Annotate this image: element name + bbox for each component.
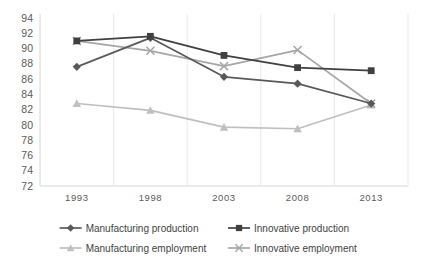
x-axis-tick-label: 2003: [212, 192, 236, 203]
line-chart: 727476788082848688909294 199319982003200…: [0, 0, 422, 262]
y-axis-tick-label: 84: [21, 88, 33, 100]
legend-label: Manufacturing employment: [86, 243, 207, 254]
series-manufacturing-employment: [73, 99, 376, 132]
y-axis-tick-label: 86: [21, 73, 33, 85]
legend-label: Innovative employment: [254, 243, 357, 254]
y-axis-tick-label: 82: [21, 103, 33, 115]
chart-canvas: 727476788082848688909294 199319982003200…: [0, 0, 422, 262]
legend-item[interactable]: Innovative employment: [228, 243, 357, 254]
chart-legend: Manufacturing productionInnovative produ…: [60, 223, 357, 254]
legend-label: Manufacturing production: [86, 223, 199, 234]
series-innovative-production: [73, 33, 374, 74]
x-axis-tick-label: 2008: [286, 192, 310, 203]
legend-item[interactable]: Innovative production: [228, 223, 349, 234]
legend-item[interactable]: Manufacturing production: [60, 223, 199, 234]
data-point: [220, 73, 228, 81]
y-axis-tick-label: 90: [21, 42, 33, 54]
legend-label: Innovative production: [254, 223, 349, 234]
x-axis-tick-label: 1993: [65, 192, 89, 203]
series-innovative-employment: [73, 37, 375, 108]
x-axis-tick-labels: 19931998200320082013: [65, 192, 383, 203]
y-axis-tick-label: 92: [21, 27, 33, 39]
series-layer: [73, 33, 376, 132]
legend-item[interactable]: Manufacturing employment: [60, 243, 207, 254]
data-point: [73, 38, 80, 45]
y-axis-tick-label: 76: [21, 149, 33, 161]
y-axis-tick-label: 88: [21, 57, 33, 69]
y-axis-tick-label: 80: [21, 119, 33, 131]
data-point: [221, 52, 228, 59]
y-axis-tick-labels: 727476788082848688909294: [21, 12, 33, 192]
x-axis-tick-label: 1998: [139, 192, 163, 203]
y-axis-tick-label: 74: [21, 164, 33, 176]
x-axis-tick-label: 2013: [359, 192, 383, 203]
series-manufacturing-production: [73, 34, 376, 108]
data-point: [147, 33, 154, 40]
data-point: [368, 67, 375, 74]
y-axis-tick-label: 72: [21, 180, 33, 192]
data-point: [294, 80, 302, 88]
data-point: [294, 64, 301, 71]
y-axis-tick-label: 78: [21, 134, 33, 146]
data-point: [73, 63, 81, 71]
y-axis-tick-label: 94: [21, 12, 33, 24]
